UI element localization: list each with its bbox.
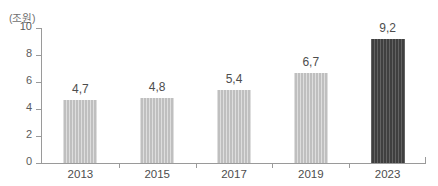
y-axis-tick-mark <box>36 163 41 164</box>
bar-group: 9,2 <box>349 28 426 163</box>
y-axis-tick-mark <box>36 28 41 29</box>
y-axis-tick: 8 <box>36 55 41 56</box>
bar-value-label: 5,4 <box>226 73 243 85</box>
y-axis-tick-mark <box>36 136 41 137</box>
y-axis-tick-label: 2 <box>26 129 32 140</box>
y-axis-tick-mark <box>36 82 41 83</box>
bar-value-label: 4,7 <box>72 83 89 95</box>
x-axis-tick-mark <box>119 163 120 168</box>
y-axis-tick-label: 8 <box>26 48 32 59</box>
y-axis-tick: 10 <box>36 28 41 29</box>
x-axis-category-label: 2017 <box>221 169 247 181</box>
x-axis-tick-mark <box>196 163 197 168</box>
y-axis-tick: 4 <box>36 109 41 110</box>
x-axis-tick-mark <box>272 163 273 168</box>
bar-group: 4,8 <box>119 28 196 163</box>
bar-chart: (조원) 0246810 4,74,85,46,79,2 20132015201… <box>0 0 438 186</box>
y-axis-tick-mark <box>36 55 41 56</box>
y-axis-tick-label: 6 <box>26 75 32 86</box>
x-axis-category-label: 2013 <box>68 169 94 181</box>
bar-value-label: 9,2 <box>379 22 396 34</box>
bar[interactable] <box>63 100 97 163</box>
bar-value-label: 6,7 <box>302 56 319 68</box>
x-axis-line <box>41 163 426 164</box>
x-axis-tick-mark <box>349 163 350 168</box>
plot-area: 4,74,85,46,79,2 <box>42 28 426 163</box>
y-axis-tick: 2 <box>36 136 41 137</box>
bar[interactable] <box>294 73 328 163</box>
x-axis-category-label: 2023 <box>375 169 401 181</box>
x-axis-category-label: 2019 <box>298 169 324 181</box>
y-axis-tick-label: 0 <box>26 156 32 167</box>
x-axis-category-label: 2015 <box>144 169 170 181</box>
bar[interactable] <box>140 98 174 163</box>
bar-group: 4,7 <box>42 28 119 163</box>
y-axis-tick-label: 4 <box>26 102 32 113</box>
bar-group: 6,7 <box>272 28 349 163</box>
bar-value-label: 4,8 <box>149 81 166 93</box>
bar[interactable] <box>217 90 251 163</box>
y-axis-tick: 6 <box>36 82 41 83</box>
y-axis-tick-label: 10 <box>20 21 32 32</box>
y-axis-tick: 0 <box>36 163 41 164</box>
bar-group: 5,4 <box>196 28 273 163</box>
bar[interactable] <box>371 39 405 163</box>
y-axis-tick-mark <box>36 109 41 110</box>
